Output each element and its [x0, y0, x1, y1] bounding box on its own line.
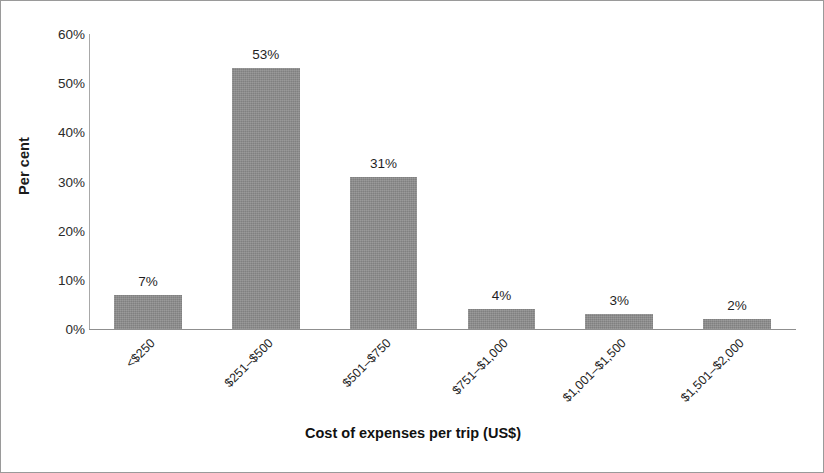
bar-group[interactable]: 4%	[468, 34, 536, 329]
x-axis-tick-label: $1,501–$2,000	[678, 336, 747, 405]
y-axis-tick-label: 0%	[39, 322, 85, 337]
bar-group[interactable]: 3%	[585, 34, 653, 329]
bar-group[interactable]: 53%	[232, 34, 300, 329]
y-axis-tick-label: 40%	[39, 125, 85, 140]
bar[interactable]	[585, 314, 653, 329]
x-axis-title: Cost of expenses per trip (US$)	[1, 425, 824, 441]
x-axis-tick-labels: <$250$251–$500$501–$750$751–$1,000$1,001…	[89, 332, 796, 422]
y-axis-tick-label: 30%	[39, 174, 85, 189]
bar-value-label: 31%	[370, 156, 397, 171]
x-axis-tick-label: $1,001–$1,500	[560, 336, 629, 405]
x-axis-tick-label: $251–$500	[222, 336, 276, 390]
bar-value-label: 7%	[138, 274, 158, 289]
bar-value-label: 2%	[727, 298, 747, 313]
plot-area: 7%53%31%4%3%2%	[89, 34, 796, 329]
bar-value-label: 4%	[492, 288, 512, 303]
bar-group[interactable]: 2%	[703, 34, 771, 329]
bar[interactable]	[468, 309, 536, 329]
bar-series: 7%53%31%4%3%2%	[89, 34, 796, 329]
y-axis-title-text: Per cent	[16, 137, 32, 195]
bar[interactable]	[114, 295, 182, 329]
chart-figure: Per cent 0%10%20%30%40%50%60% 7%53%31%4%…	[0, 0, 824, 473]
bar-group[interactable]: 31%	[350, 34, 418, 329]
y-axis-tick-label: 50%	[39, 76, 85, 91]
y-axis-tick-labels: 0%10%20%30%40%50%60%	[33, 1, 85, 473]
x-axis-line	[89, 329, 796, 330]
y-axis-tick-label: 10%	[39, 272, 85, 287]
y-axis-tick-label: 20%	[39, 223, 85, 238]
bar-value-label: 53%	[252, 47, 279, 62]
y-axis-tick-label: 60%	[39, 27, 85, 42]
bar[interactable]	[232, 68, 300, 329]
bar-value-label: 3%	[609, 293, 629, 308]
x-axis-tick-label: $501–$750	[339, 336, 393, 390]
x-axis-tick-label: <$250	[123, 336, 158, 371]
bar[interactable]	[703, 319, 771, 329]
bar[interactable]	[350, 177, 418, 329]
x-axis-tick-label: $751–$1,000	[450, 336, 512, 398]
bar-group[interactable]: 7%	[114, 34, 182, 329]
